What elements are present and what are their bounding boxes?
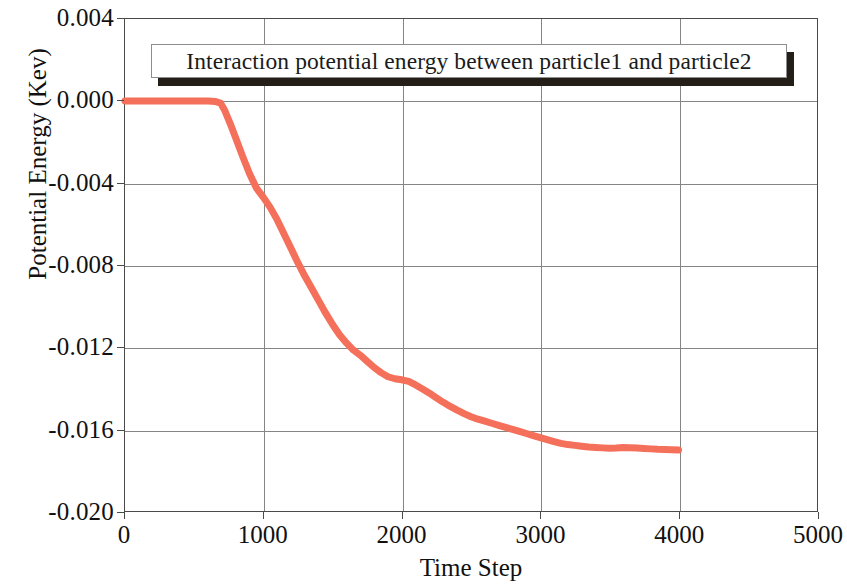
- y-axis-tick-label: -0.012: [4, 334, 114, 359]
- x-axis-tick: [263, 512, 264, 519]
- x-axis-tick-label: 4000: [609, 521, 749, 548]
- chart-title-box: Interaction potential energy between par…: [151, 44, 787, 78]
- x-axis-tick-label: 1000: [193, 521, 333, 548]
- x-axis-tick-label: 2000: [332, 521, 472, 548]
- y-axis-tick-label: -0.008: [4, 252, 114, 277]
- y-axis-tick: [117, 18, 124, 19]
- x-axis-tick-label: 3000: [470, 521, 610, 548]
- x-axis-tick-label: 5000: [748, 521, 847, 548]
- y-axis-tick-label: 0.004: [4, 5, 114, 30]
- x-axis-title: Time Step: [124, 554, 818, 582]
- y-axis-tick: [117, 430, 124, 431]
- y-axis-tick: [117, 265, 124, 266]
- y-axis-tick-label: 0.000: [4, 87, 114, 112]
- x-axis-tick: [402, 512, 403, 519]
- x-axis-tick-label: 0: [54, 521, 194, 548]
- x-axis-tick: [679, 512, 680, 519]
- y-axis-tick-label: -0.004: [4, 170, 114, 195]
- chart-title-text: Interaction potential energy between par…: [186, 49, 751, 73]
- y-axis-title: Potential Energy (Kev): [24, 0, 52, 329]
- chart-container: 0.0040.000-0.004-0.008-0.012-0.016-0.020…: [0, 0, 847, 586]
- y-axis-tick-label: -0.016: [4, 417, 114, 442]
- x-axis-tick: [818, 512, 819, 519]
- y-axis-tick: [117, 100, 124, 101]
- data-series-line: [125, 19, 817, 511]
- y-axis-tick: [117, 347, 124, 348]
- y-axis-tick: [117, 183, 124, 184]
- x-axis-tick: [124, 512, 125, 519]
- plot-area: [124, 18, 818, 512]
- y-axis-tick: [117, 512, 124, 513]
- series-polyline: [125, 101, 679, 450]
- x-axis-tick: [540, 512, 541, 519]
